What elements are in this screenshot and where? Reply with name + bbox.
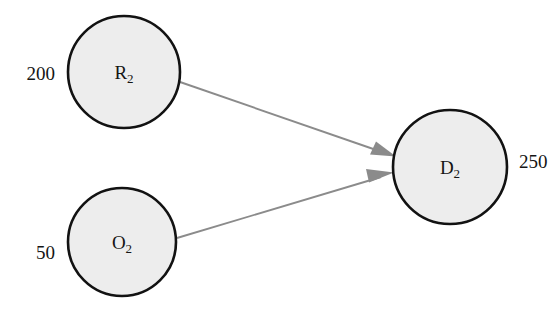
edge-o2-to-d2-line: [177, 177, 381, 238]
edge-o2-to-d2: [177, 169, 394, 238]
node-o2-supply-value: 50: [36, 242, 55, 263]
node-d2-label-base: D: [440, 157, 454, 178]
diagram-svg: R2 O2 D2 200 50 250: [0, 0, 560, 327]
node-o2-label-subscript: 2: [126, 241, 133, 256]
edge-o2-to-d2-arrowhead: [366, 169, 394, 183]
node-r2-label-base: R: [114, 62, 127, 83]
node-d2-demand-value: 250: [519, 151, 548, 172]
node-r2-label-subscript: 2: [127, 71, 134, 86]
edge-r2-to-d2: [180, 82, 396, 157]
node-d2-label-subscript: 2: [454, 166, 461, 181]
edge-r2-to-d2-arrowhead: [370, 142, 396, 157]
node-o2[interactable]: O2: [68, 188, 176, 296]
node-r2[interactable]: R2: [68, 16, 180, 128]
edge-r2-to-d2-line: [180, 82, 382, 152]
node-r2-supply-value: 200: [27, 63, 56, 84]
node-o2-label-base: O: [112, 232, 126, 253]
node-d2[interactable]: D2: [393, 110, 507, 224]
diagram-canvas: R2 O2 D2 200 50 250: [0, 0, 560, 327]
